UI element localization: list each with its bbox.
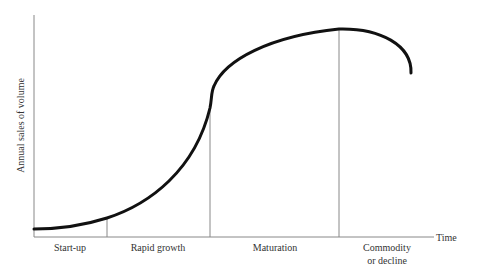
phase-label-rapid-growth: Rapid growth: [118, 242, 198, 254]
phase-label-decline: or decline: [352, 255, 422, 267]
life-cycle-chart: [0, 0, 480, 276]
phase-label-commodity: Commodity: [352, 242, 422, 254]
y-axis-label: Annual sales of volume: [15, 66, 26, 186]
phase-label-startup: Start-up: [40, 242, 100, 254]
x-axis-label: Time: [436, 232, 457, 244]
phase-label-maturation: Maturation: [240, 242, 310, 254]
sales-curve: [34, 29, 411, 229]
